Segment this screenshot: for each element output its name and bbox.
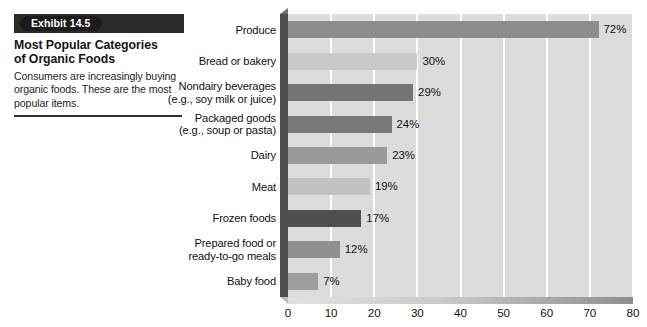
bar — [288, 273, 318, 290]
bar-category-label: Nondairy beverages(e.g., soy milk or jui… — [126, 80, 276, 105]
exhibit-title-line-2: of Organic Foods — [14, 52, 115, 66]
bar — [288, 210, 361, 227]
exhibit-title-line-1: Most Popular Categories — [14, 38, 158, 52]
bar — [288, 21, 599, 38]
bar-category-label-line-1: Prepared food or — [126, 237, 276, 249]
bar-category-label-line-1: Frozen foods — [126, 212, 276, 224]
gridline — [546, 14, 548, 297]
bar — [288, 178, 370, 195]
gridline — [460, 14, 462, 297]
x-axis-tick-label: 0 — [273, 306, 303, 320]
x-axis-tick-label: 70 — [575, 306, 605, 320]
bar-category-label-line-1: Bread or bakery — [126, 55, 276, 67]
bar — [288, 53, 417, 70]
x-axis-tick-label: 30 — [402, 306, 432, 320]
x-axis-tick-label: 50 — [489, 306, 519, 320]
gridline — [503, 14, 505, 297]
bar-value-label: 24% — [397, 116, 420, 133]
bar — [288, 84, 413, 101]
bar-category-label-line-1: Dairy — [126, 149, 276, 161]
bar-value-label: 19% — [375, 178, 398, 195]
gridline — [589, 14, 591, 297]
plot-floor — [288, 297, 633, 304]
bar-category-label-line-1: Meat — [126, 181, 276, 193]
bar-category-label: Frozen foods — [126, 212, 276, 224]
plot-left-wall — [280, 14, 288, 297]
x-axis-tick-label: 40 — [446, 306, 476, 320]
bar-value-label: 17% — [366, 210, 389, 227]
gridline — [632, 14, 634, 297]
bar-category-label-line-2: (e.g., soup or pasta) — [126, 124, 276, 136]
bar-category-label: Dairy — [126, 149, 276, 161]
bar-category-label: Meat — [126, 181, 276, 193]
bar-category-label-line-1: Nondairy beverages — [126, 80, 276, 92]
bar-value-label: 23% — [392, 147, 415, 164]
bar — [288, 147, 387, 164]
x-axis-tick-label: 60 — [532, 306, 562, 320]
bar-value-label: 29% — [418, 84, 441, 101]
bar-category-label: Packaged goods(e.g., soup or pasta) — [126, 112, 276, 137]
bar-value-label: 12% — [345, 241, 368, 258]
bar-category-label: Baby food — [126, 275, 276, 287]
bar-chart: Produce72%Bread or bakery30%Nondairy bev… — [186, 14, 633, 314]
x-axis-tick-label: 80 — [618, 306, 647, 320]
bar — [288, 241, 340, 258]
x-axis-tick-label: 20 — [359, 306, 389, 320]
bar-category-label-line-2: (e.g., soy milk or juice) — [126, 93, 276, 105]
bar-category-label-line-1: Baby food — [126, 275, 276, 287]
bar — [288, 116, 392, 133]
bar-category-label: Prepared food orready-to-go meals — [126, 237, 276, 262]
bar-category-label: Produce — [126, 24, 276, 36]
bar-value-label: 72% — [604, 21, 627, 38]
bar-category-label: Bread or bakery — [126, 55, 276, 67]
bar-category-label-line-1: Packaged goods — [126, 112, 276, 124]
bar-value-label: 30% — [422, 53, 445, 70]
bar-category-label-line-2: ready-to-go meals — [126, 250, 276, 262]
x-axis-tick-label: 10 — [316, 306, 346, 320]
x-axis: 01020304050607080 — [288, 306, 633, 322]
bar-category-label-line-1: Produce — [126, 24, 276, 36]
exhibit-number-badge: Exhibit 14.5 — [20, 16, 102, 31]
bar-value-label: 7% — [323, 273, 339, 290]
